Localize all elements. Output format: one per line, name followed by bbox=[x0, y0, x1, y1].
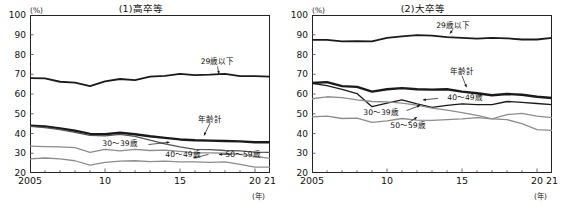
y-axis-tick-label: 40 bbox=[15, 129, 26, 138]
y-axis-tick-label: 40 bbox=[297, 129, 308, 138]
y-axis-tick-label: 80 bbox=[297, 50, 308, 59]
series-annotation-label: 40～49歳 bbox=[447, 94, 482, 102]
y-axis-tick-label: 90 bbox=[297, 30, 308, 39]
y-axis-tick-label: 60 bbox=[297, 90, 308, 99]
annotation-arrow-head bbox=[464, 84, 466, 87]
y-axis-tick-label: 60 bbox=[15, 90, 26, 99]
series-annotation-label: 29歳以下 bbox=[201, 58, 235, 66]
panel-1-y-unit: (%) bbox=[30, 6, 43, 15]
x-axis-tick-label: 2005 bbox=[18, 176, 42, 186]
series-annotation-label: 50～59歳 bbox=[390, 122, 425, 130]
x-axis-tick-label: 20 bbox=[531, 176, 543, 186]
y-axis-tick-label: 100 bbox=[9, 11, 26, 20]
annotation-arrow-head bbox=[417, 105, 420, 107]
y-axis-tick-label: 100 bbox=[291, 11, 308, 20]
y-axis-tick-label: 70 bbox=[15, 70, 26, 79]
panel-1-x-unit: (年) bbox=[252, 190, 265, 201]
series-line-3 bbox=[30, 126, 270, 152]
panel-2-y-axis-labels: 2030405060708090100 bbox=[282, 15, 310, 173]
y-axis-tick-label: 90 bbox=[15, 30, 26, 39]
x-axis-tick-label: 20 bbox=[249, 176, 261, 186]
y-axis-tick-label: 70 bbox=[297, 70, 308, 79]
panel-1-plot-area: 29歳以下年齢計30～39歳40～49歳50～59歳 bbox=[30, 15, 270, 173]
panel-2-x-axis-labels: 200510152021 bbox=[312, 176, 560, 190]
y-axis-tick-label: 50 bbox=[15, 109, 26, 118]
series-line-5 bbox=[30, 158, 270, 167]
series-line-1 bbox=[30, 74, 270, 86]
x-axis-tick-label: 21 bbox=[546, 176, 558, 186]
annotation-arrow-head bbox=[450, 30, 453, 33]
y-axis-tick-label: 80 bbox=[15, 50, 26, 59]
series-line-5 bbox=[312, 116, 552, 130]
panel-2-y-unit: (%) bbox=[312, 6, 325, 15]
series-annotation-label: 40～49歳 bbox=[165, 151, 200, 159]
y-axis-tick-label: 30 bbox=[297, 149, 308, 158]
x-axis-tick-label: 15 bbox=[174, 176, 186, 186]
series-annotation-label: 年齢計 bbox=[198, 116, 222, 124]
series-annotation-label: 年齢計 bbox=[450, 68, 474, 76]
series-line-4 bbox=[312, 97, 552, 119]
y-axis-tick-label: 30 bbox=[15, 149, 26, 158]
x-axis-tick-label: 15 bbox=[456, 176, 468, 186]
x-axis-tick-label: 21 bbox=[264, 176, 276, 186]
panel-2-plot-area: 29歳以下年齢計40～49歳30～39歳50～59歳 bbox=[312, 15, 552, 173]
series-annotation-label: 30～39歳 bbox=[102, 140, 137, 148]
x-axis-tick-label: 10 bbox=[381, 176, 393, 186]
chart-panel-high-school: (1)高卒等 (%) 2030405060708090100 29歳以下年齢計3… bbox=[0, 0, 282, 208]
panel-1-y-axis-labels: 2030405060708090100 bbox=[0, 15, 28, 173]
series-line-1 bbox=[312, 35, 552, 41]
y-axis-tick-label: 50 bbox=[297, 109, 308, 118]
series-annotation-label: 30～39歳 bbox=[363, 109, 398, 117]
panel-2-x-unit: (年) bbox=[534, 190, 547, 201]
chart-panel-university: (2)大卒等 (%) 2030405060708090100 29歳以下年齢計4… bbox=[282, 0, 564, 208]
series-annotation-label: 50～59歳 bbox=[225, 151, 260, 159]
dual-line-chart-figure: (1)高卒等 (%) 2030405060708090100 29歳以下年齢計3… bbox=[0, 0, 564, 208]
series-line-2 bbox=[312, 82, 552, 98]
x-axis-tick-label: 10 bbox=[99, 176, 111, 186]
panel-2-svg bbox=[312, 15, 552, 173]
series-annotation-label: 29歳以下 bbox=[436, 22, 470, 30]
x-axis-tick-label: 2005 bbox=[300, 176, 324, 186]
panel-1-x-axis-labels: 200510152021 bbox=[30, 176, 278, 190]
